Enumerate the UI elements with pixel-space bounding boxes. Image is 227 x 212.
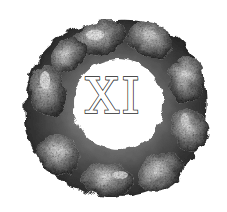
hands-ring-logo: XI — [0, 0, 227, 212]
roman-numeral-text: XI — [0, 72, 227, 120]
